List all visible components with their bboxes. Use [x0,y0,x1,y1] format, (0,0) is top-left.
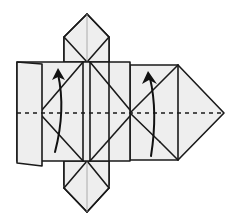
diagram-canvas [0,0,240,223]
top-diamond-flap [64,14,109,62]
bottom-diamond-flap [64,161,109,212]
left-flap [17,62,42,166]
origami-diagram: Origami folding step: valley fold along … [0,0,240,223]
